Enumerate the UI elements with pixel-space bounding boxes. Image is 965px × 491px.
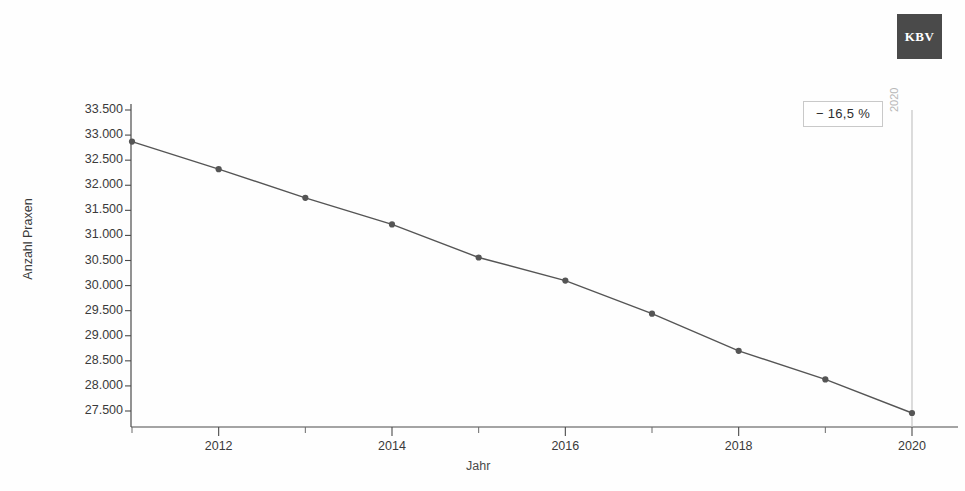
change-badge: − 16,5 % <box>803 101 883 127</box>
x-tick-label: 2014 <box>378 439 406 453</box>
line-chart: 33.50033.00032.50032.00031.50031.00030.5… <box>0 0 965 491</box>
x-tick-label: 2012 <box>205 439 233 453</box>
x-tick-label: 2020 <box>898 439 926 453</box>
x-tick-label: 2016 <box>551 439 579 453</box>
y-axis-title: Anzahl Praxen <box>21 189 35 289</box>
reference-line-label: 2020 <box>888 88 900 112</box>
chart-page: KBV 33.50033.00032.50032.00031.50031.000… <box>0 0 965 491</box>
x-tick-label: 2018 <box>725 439 753 453</box>
x-tick-label-group: 20122014201620182020 <box>0 0 965 491</box>
x-axis-title: Jahr <box>466 459 490 473</box>
